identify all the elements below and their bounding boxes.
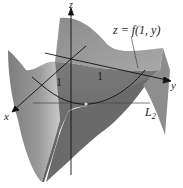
l2-label-subscript: 2 — [152, 112, 156, 121]
l2-label: L2 — [145, 106, 156, 121]
x-tick-1: 1 — [56, 76, 62, 88]
l2-label-letter: L — [145, 105, 152, 119]
curve-label: z = f(1, y) — [113, 24, 160, 36]
z-axis-label: z — [69, 0, 73, 10]
y-axis-label: y — [171, 80, 176, 91]
surface-plot-figure: z x y z = f(1, y) 1 1 L2 — [0, 0, 183, 188]
tangent-point — [84, 102, 87, 105]
x-axis-label: x — [4, 111, 9, 122]
y-tick-1: 1 — [97, 70, 103, 82]
